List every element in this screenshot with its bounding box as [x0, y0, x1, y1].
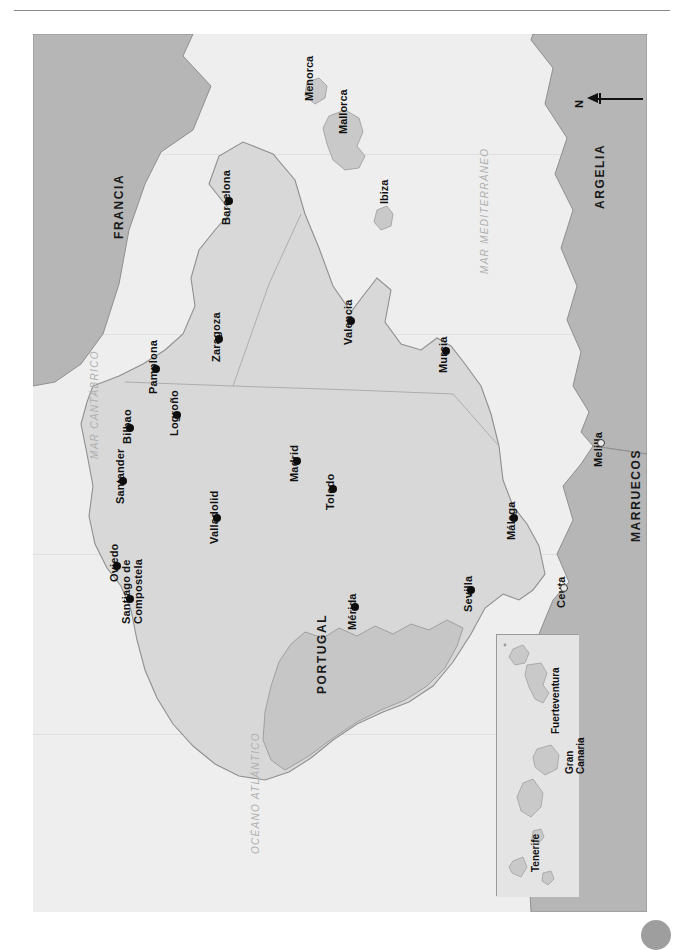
north-arrow-shaft	[595, 98, 643, 100]
inset-label-tenerife: Tenerife	[531, 834, 542, 872]
sea-label-mediterraneo: MAR MEDITERRÁNEO	[480, 148, 491, 274]
country-label-argelia: ARGELIA	[594, 144, 607, 209]
city-dot-santander[interactable]	[119, 477, 127, 485]
island-label-ibiza: Ibiza	[379, 180, 391, 204]
inset-label-line-2: Canaria	[576, 737, 587, 774]
city-dot-barcelona[interactable]	[225, 197, 233, 205]
sea-label-cantabrico: MAR CANTÁBRICO	[90, 350, 101, 459]
city-dot-oviedo[interactable]	[113, 562, 121, 570]
city-label-merida: Mérida	[347, 593, 359, 630]
city-label-ceuta: Ceuta	[556, 576, 568, 608]
country-label-francia: FRANCIA	[113, 174, 126, 239]
city-label-line-1: Santiago de	[121, 559, 133, 624]
city-dot-valencia[interactable]	[347, 317, 355, 325]
city-dot-logrono[interactable]	[173, 411, 181, 419]
city-dot-malaga[interactable]	[510, 514, 518, 522]
city-label-line-2: Compostela	[133, 559, 145, 624]
north-arrow-crossbar	[599, 93, 601, 104]
north-arrow-icon	[585, 92, 645, 106]
city-dot-toledo[interactable]	[329, 485, 337, 493]
city-label-santiago-de-compostela: Santiago de Compostela	[121, 559, 144, 624]
city-dot-madrid[interactable]	[293, 457, 301, 465]
north-arrow-label: N	[573, 100, 585, 108]
page-marker-dot	[641, 920, 671, 950]
city-dot-santiago-de-compostela[interactable]	[126, 595, 134, 603]
inset-label-fuerteventura: Fuerteventura	[551, 667, 562, 734]
city-dot-pamplona[interactable]	[152, 365, 160, 373]
country-label-portugal: PORTUGAL	[316, 614, 329, 694]
city-dot-bilbao[interactable]	[126, 424, 134, 432]
map-figure: OCÉANO ATLÁNTICO MAR CANTÁBRICO MAR MEDI…	[33, 34, 647, 912]
sea-label-atlantico: OCÉANO ATLÁNTICO	[251, 732, 262, 854]
city-label-sevilla: Sevilla	[463, 576, 475, 612]
city-dot-valladolid[interactable]	[213, 514, 221, 522]
inset-label-line-1: Gran	[565, 737, 576, 774]
city-dot-sevilla[interactable]	[467, 586, 475, 594]
inset-label-gran-canaria: Gran Canaria	[565, 737, 586, 774]
city-dot-ceuta[interactable]	[560, 584, 568, 592]
inset-islet	[504, 644, 507, 647]
city-dot-zaragoza[interactable]	[215, 335, 223, 343]
island-label-mallorca: Mallorca	[338, 89, 350, 134]
header-rule	[14, 10, 670, 11]
city-dot-merida[interactable]	[351, 603, 359, 611]
island-label-menorca: Menorca	[304, 56, 316, 101]
city-label-melilla: Melilla	[593, 432, 605, 467]
city-dot-melilla[interactable]	[597, 439, 605, 447]
country-label-marruecos: MARRUECOS	[630, 449, 643, 542]
city-dot-murcia[interactable]	[442, 347, 450, 355]
